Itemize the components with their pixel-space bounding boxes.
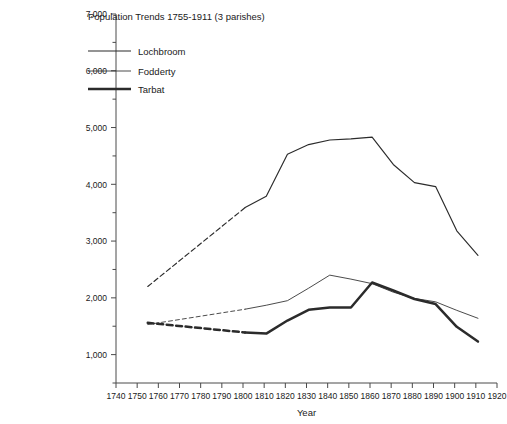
chart-canvas: 1,0002,0003,0004,0005,0006,0007,00017401… [0, 0, 507, 424]
y-tick-label: 2,000 [86, 293, 108, 303]
y-tick-label: 5,000 [86, 123, 108, 133]
x-tick-label: 1880 [403, 391, 422, 401]
x-tick-label: 1740 [107, 391, 126, 401]
x-tick-label: 1920 [488, 391, 507, 401]
legend-label: Lochbroom [138, 46, 186, 57]
population-trends-chart: 1,0002,0003,0004,0005,0006,0007,00017401… [0, 0, 507, 424]
legend-item-tarbat: Tarbat [88, 84, 165, 95]
x-tick-label: 1810 [255, 391, 274, 401]
y-tick-label: 3,000 [86, 236, 108, 246]
x-tick-label: 1760 [149, 391, 168, 401]
series-lochbroom [148, 137, 478, 286]
series-group [148, 137, 478, 341]
series-fodderty [148, 275, 478, 324]
x-tick-label: 1890 [424, 391, 443, 401]
x-tick-label: 1790 [212, 391, 231, 401]
x-axis-title: Year [297, 407, 316, 418]
x-tick-label: 1870 [382, 391, 401, 401]
legend-label: Fodderty [138, 66, 176, 77]
series-tarbat [148, 283, 478, 342]
x-tick-label: 1820 [276, 391, 295, 401]
x-tick-label: 1800 [234, 391, 253, 401]
y-tick-label: 1,000 [86, 350, 108, 360]
x-tick-label: 1750 [128, 391, 147, 401]
legend-item-lochbroom: Lochbroom [88, 46, 186, 57]
x-tick-label: 1910 [466, 391, 485, 401]
y-tick-label: 4,000 [86, 180, 108, 190]
chart-title: Population Trends 1755-1911 (3 parishes) [88, 11, 265, 22]
series-line-estimated [148, 323, 245, 333]
x-tick-label: 1830 [297, 391, 316, 401]
series-line-estimated [148, 309, 245, 324]
legend-label: Tarbat [138, 84, 165, 95]
chart-header: Population Trends 1755-1911 (3 parishes)… [88, 11, 265, 95]
x-tick-label: 1780 [191, 391, 210, 401]
x-tick-label: 1840 [318, 391, 337, 401]
series-line-observed [245, 283, 478, 342]
series-line-observed [245, 137, 478, 255]
series-line-estimated [148, 208, 245, 287]
x-tick-label: 1860 [361, 391, 380, 401]
x-tick-label: 1850 [339, 391, 358, 401]
x-tick-label: 1900 [445, 391, 464, 401]
x-tick-label: 1770 [170, 391, 189, 401]
